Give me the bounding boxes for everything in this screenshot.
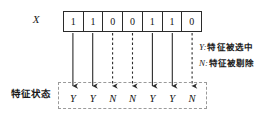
legend-item-selected: Y: 特征被选中: [199, 40, 278, 56]
bit-cell: 0: [182, 12, 201, 31]
bit-cell: 0: [103, 12, 123, 31]
legend-item-removed: N: 特征被剔除: [199, 56, 278, 72]
state-cell: Y: [142, 90, 162, 106]
state-cell: Y: [83, 90, 103, 106]
legend-key: Y:: [199, 42, 206, 52]
legend-key: N:: [199, 58, 208, 68]
chromosome-bit-box: 1 1 0 0 1 1 0: [63, 11, 202, 32]
feature-selection-diagram: X 1 1 0 0 1 1 0 特征状态 Y Y N N: [0, 0, 278, 117]
bit-cell: 1: [64, 12, 84, 31]
chromosome-label: X: [24, 12, 48, 26]
legend-text: 特征被剔除: [209, 56, 255, 68]
bit-cell: 1: [163, 12, 183, 31]
state-cell: N: [103, 90, 123, 106]
feature-state-label: 特征状态: [6, 88, 56, 100]
legend: Y: 特征被选中 N: 特征被剔除: [199, 40, 278, 72]
bit-cell: 1: [143, 12, 163, 31]
state-cell: Y: [162, 90, 182, 106]
feature-state-row: Y Y N N Y Y N: [63, 90, 202, 106]
bit-cell: 0: [123, 12, 143, 31]
state-cell: N: [182, 90, 202, 106]
state-cell: Y: [63, 90, 83, 106]
state-cell: N: [123, 90, 143, 106]
legend-text: 特征被选中: [207, 40, 253, 52]
bit-cell: 1: [84, 12, 104, 31]
